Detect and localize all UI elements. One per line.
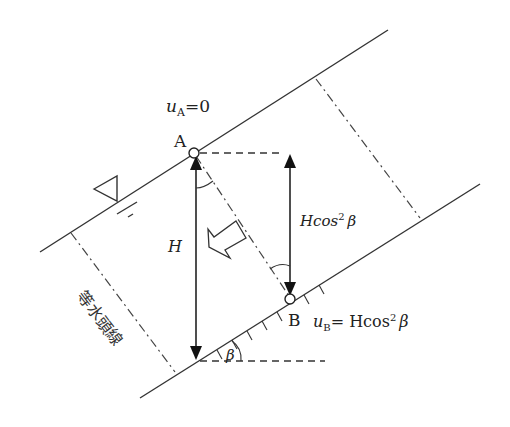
angle-arc-a	[196, 181, 213, 188]
pressure-head-label: Hcos2β	[299, 211, 357, 230]
height-label: H	[167, 237, 183, 256]
slope-seepage-diagram: uA=0 A H Hcos2β B uB= Hcos2β β 等水頭線	[0, 0, 510, 427]
equipotential-line-ab	[196, 156, 289, 296]
u-b-label: uB= Hcos2β	[313, 312, 409, 333]
point-a-label: A	[173, 131, 187, 151]
water-level-mark-1	[117, 202, 137, 214]
water-level-mark-2	[128, 214, 133, 217]
water-level-triangle-icon	[94, 176, 117, 201]
point-a-marker	[189, 148, 199, 158]
height-arrow-head-bottom	[190, 346, 202, 360]
beta-angle-label: β	[225, 346, 235, 364]
point-b-label: B	[288, 310, 301, 330]
angle-arc-b	[270, 265, 290, 269]
point-b-marker	[285, 294, 295, 304]
pressure-head-arrow-head-top	[284, 154, 296, 168]
flow-direction-arrow-icon	[208, 221, 246, 258]
equipotential-line-right	[316, 79, 420, 218]
u-a-label: uA=0	[166, 96, 210, 119]
